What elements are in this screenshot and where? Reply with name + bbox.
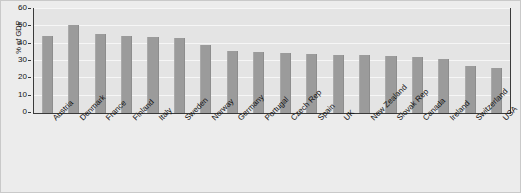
x-tick-label: Spain xyxy=(316,116,322,122)
x-tick-label: France xyxy=(104,116,110,122)
y-tick-mark xyxy=(28,77,31,78)
x-tick-label: USA xyxy=(501,116,507,122)
bar xyxy=(174,38,185,113)
x-tick-label: Germany xyxy=(236,116,242,122)
bar xyxy=(333,55,344,113)
x-tick-label: Ireland xyxy=(448,116,454,122)
x-tick-label: Italy xyxy=(157,116,163,122)
y-tick-mark xyxy=(28,8,31,9)
y-tick-label: 20 xyxy=(18,73,27,81)
chart-figure: % of GDP 0102030405060 AustriaDenmarkFra… xyxy=(0,0,521,193)
x-tick-label: Finland xyxy=(131,116,137,122)
x-axis-ticks: AustriaDenmarkFranceFinlandItalySwedenNo… xyxy=(33,114,511,193)
x-tick-label: Sweden xyxy=(183,116,189,122)
x-tick-label: Czech Rep xyxy=(289,116,295,122)
x-tick-label: Norway xyxy=(210,116,216,122)
x-tick-label: Switzerland xyxy=(474,116,480,122)
y-tick-label: 40 xyxy=(18,39,27,47)
y-tick-label: 0 xyxy=(23,108,27,116)
bar xyxy=(42,36,53,113)
x-tick-label: New Zealand xyxy=(369,116,375,122)
y-tick-label: 30 xyxy=(18,56,27,64)
y-tick-mark xyxy=(28,60,31,61)
y-tick-mark xyxy=(28,43,31,44)
y-tick-mark xyxy=(28,25,31,26)
x-tick-label: Slovak Rep xyxy=(395,116,401,122)
y-tick-label: 10 xyxy=(18,91,27,99)
x-tick-label: UK xyxy=(342,116,348,122)
y-tick-label: 50 xyxy=(18,21,27,29)
bar xyxy=(359,55,370,113)
x-tick-label: Austria xyxy=(51,116,57,122)
y-tick-mark xyxy=(28,112,31,113)
y-axis-ticks: 0102030405060 xyxy=(0,8,31,114)
x-tick-label: Canada xyxy=(421,116,427,122)
x-tick-label: Denmark xyxy=(78,116,84,122)
y-tick-label: 60 xyxy=(18,4,27,12)
x-tick-label: Portugal xyxy=(263,116,269,122)
y-tick-mark xyxy=(28,95,31,96)
